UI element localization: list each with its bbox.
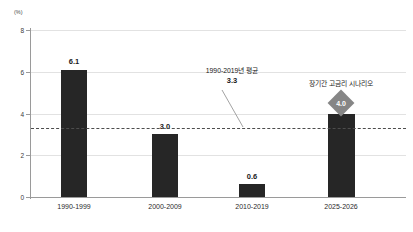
y-tick-mark-2 [26,155,31,156]
bar-2000-2009[interactable] [152,134,178,197]
y-tick-label-8: 8 [2,27,24,34]
y-tick-label-2: 2 [2,152,24,159]
scenario-label: 장기간 고금리 시나리오 [309,78,373,88]
bar-value-2010-2019: 0.6 [247,172,257,181]
x-tick-label-2010-2019: 2010-2019 [235,203,268,210]
y-tick-mark-4 [26,114,31,115]
bar-2025-2026[interactable] [328,114,355,198]
x-tick-label-2025-2026: 2025-2026 [324,203,357,210]
average-line-label: 1990-2019년 평균 [206,65,258,75]
y-tick-label-4: 4 [2,110,24,117]
bar-value-1990-1999: 6.1 [69,57,79,66]
bar-value-2000-2009: 3.0 [160,122,170,131]
x-axis-line [31,197,406,198]
y-tick-label-6: 6 [2,68,24,75]
scenario-marker-value: 4.0 [336,100,346,107]
y-tick-mark-0 [26,197,31,198]
y-tick-label-0: 0 [2,194,24,201]
y-tick-mark-8 [26,30,31,31]
bar-2010-2019[interactable] [239,184,265,197]
x-tick-label-2000-2009: 2000-2009 [148,203,181,210]
average-line [31,128,406,129]
y-axis-labels: 8 6 4 2 0 [0,0,24,232]
bar-chart: (%) 8 6 4 2 0 6.1 3.0 0.6 1990-2019년 평균 … [0,0,413,232]
average-line-value: 3.3 [227,76,237,85]
y-tick-mark-6 [26,72,31,73]
x-tick-label-1990-1999: 1990-1999 [57,203,90,210]
bar-1990-1999[interactable] [61,70,87,197]
gridline-8 [31,30,406,31]
